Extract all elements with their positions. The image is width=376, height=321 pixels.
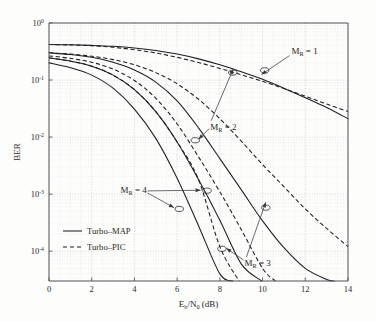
x-tick-label: 10 — [258, 284, 267, 294]
chart-legend: Turbo–MAPTurbo–PIC — [63, 226, 131, 252]
x-tick-label: 14 — [344, 284, 353, 294]
annotation-leader-line — [211, 69, 233, 120]
axis-ticks-and-labels: 0246810121410010-110-210-310-4 — [31, 18, 353, 294]
annotation-leader-line — [148, 190, 201, 191]
y-tick-label: 10-4 — [31, 246, 44, 256]
legend-label: Turbo–PIC — [87, 242, 126, 252]
legend-label: Turbo–MAP — [87, 226, 131, 236]
annotation-label: MR = 2 — [210, 122, 236, 133]
x-tick-label: 12 — [301, 284, 310, 294]
y-axis-title: BER — [12, 143, 22, 161]
annotation-label: MR = 4 — [121, 185, 148, 196]
ber-vs-ebn0-chart: MR = 1MR = 2MR = 3MR = 4 024681012141001… — [0, 0, 376, 321]
x-tick-label: 6 — [175, 284, 179, 294]
annotation-leader-line — [246, 202, 265, 257]
y-tick-label: 10-3 — [31, 189, 44, 199]
x-tick-label: 2 — [90, 284, 94, 294]
annotation-arrowhead — [169, 203, 174, 207]
annotation-label: MR = 1 — [291, 46, 317, 57]
data-marker — [191, 138, 199, 143]
annotation-label: MR = 3 — [244, 258, 271, 269]
curve-turbo-pic-m-r-4 — [49, 58, 239, 281]
x-tick-label: 0 — [47, 284, 51, 294]
y-tick-label: 100 — [33, 18, 45, 28]
y-tick-label: 10-2 — [31, 132, 44, 142]
y-tick-label: 10-1 — [31, 75, 44, 85]
annotation-leader-line — [262, 56, 290, 75]
data-marker — [175, 206, 183, 211]
data-point-markers — [175, 68, 270, 252]
x-tick-label: 8 — [218, 284, 222, 294]
data-marker — [218, 246, 226, 251]
annotation-arrowhead — [196, 188, 201, 192]
x-tick-label: 4 — [132, 284, 137, 294]
x-axis-title: Eb/N0 (dB) — [179, 299, 219, 310]
chart-page: MR = 1MR = 2MR = 3MR = 4 024681012141001… — [0, 0, 376, 321]
